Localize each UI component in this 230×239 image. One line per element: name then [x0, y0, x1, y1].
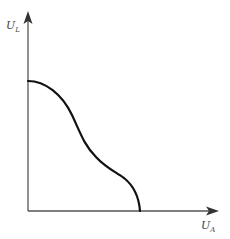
utility-frontier-chart: UL UA [0, 0, 230, 239]
y-axis-label: UL [6, 19, 20, 34]
x-axis-label: UA [201, 219, 215, 234]
frontier-curve [28, 81, 140, 211]
